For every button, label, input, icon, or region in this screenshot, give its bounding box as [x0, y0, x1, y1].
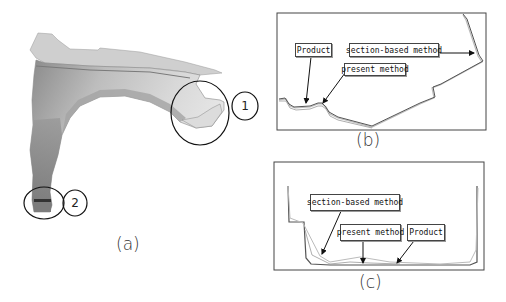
label-present-b: present method: [344, 63, 406, 76]
callout-number-1: 1: [238, 99, 252, 113]
label-section-based-c: section-based method: [310, 194, 400, 211]
label-product-b: Product: [295, 43, 332, 57]
callout-number-2: 2: [68, 196, 82, 210]
label-present-c: present method: [340, 224, 401, 241]
fender-illustration: [30, 33, 224, 212]
label-product-c: Product: [407, 224, 445, 241]
caption-a: (a): [116, 234, 140, 254]
caption-b: (b): [356, 130, 380, 150]
caption-c: (c): [359, 272, 382, 292]
label-section-based-b: section-based method: [349, 43, 439, 57]
